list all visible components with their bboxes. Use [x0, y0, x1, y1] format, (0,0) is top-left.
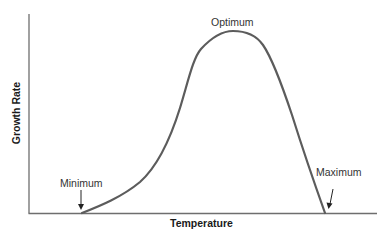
- optimum-label: Optimum: [211, 16, 254, 28]
- maximum-label: Maximum: [316, 166, 362, 178]
- chart-canvas: [0, 0, 383, 238]
- minimum-label: Minimum: [60, 177, 103, 189]
- minimum-arrow-icon: [78, 190, 84, 210]
- x-axis-title: Temperature: [170, 217, 233, 229]
- maximum-arrow-icon: [327, 189, 334, 209]
- growth-curve: [82, 31, 325, 213]
- y-axis-title: Growth Rate: [10, 80, 22, 146]
